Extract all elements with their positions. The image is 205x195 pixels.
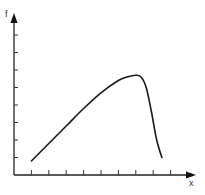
- line-chart: [0, 0, 205, 195]
- y-axis-label: f: [5, 9, 8, 19]
- x-axis-ticks: [31, 170, 170, 175]
- x-axis-label: x: [189, 178, 194, 188]
- y-axis-arrow-icon: [11, 13, 18, 23]
- data-curve: [31, 75, 162, 161]
